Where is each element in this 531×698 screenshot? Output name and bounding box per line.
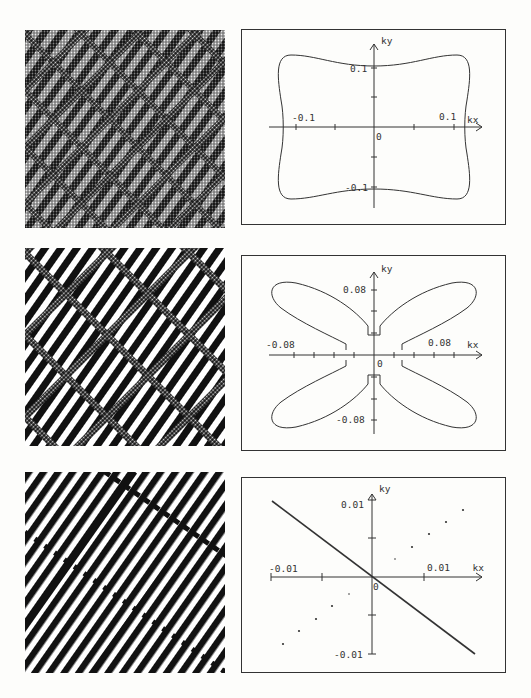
texture-pattern-3 [25, 472, 225, 673]
kx-axis-label: kx [467, 339, 479, 350]
y-tick-neg: -0.1 [345, 182, 368, 193]
origin-label: 0 [376, 131, 382, 142]
x-tick-pos: 0.08 [428, 337, 451, 348]
x-tick-neg: -0.01 [269, 563, 298, 574]
ky-axis-label: ky [379, 483, 391, 494]
wavevector-plot-1: ky kx 0.1 -0.1 -0.1 0.1 0 [241, 29, 506, 225]
wavevector-plot-2: ky kx 0.08 -0.08 -0.08 0.08 0 [241, 255, 506, 451]
y-tick-pos: 0.01 [341, 499, 364, 510]
kx-axis-label: kx [473, 562, 485, 573]
ky-axis-label: ky [381, 263, 393, 274]
x-tick-neg: -0.08 [266, 339, 295, 350]
x-tick-pos: 0.1 [439, 111, 456, 122]
origin-label: 0 [373, 581, 379, 592]
wavevector-plot-3: ky kx 0.01 -0.01 -0.01 0.01 0 [241, 477, 506, 673]
texture-pattern-1 [25, 30, 225, 228]
x-tick-pos: 0.01 [427, 562, 450, 573]
y-tick-neg: -0.01 [334, 649, 363, 660]
kx-axis-label: kx [467, 114, 479, 125]
texture-pattern-2 [25, 248, 225, 446]
y-tick-pos: 0.08 [343, 284, 366, 295]
y-tick-pos: 0.1 [350, 63, 367, 74]
ky-axis-label: ky [381, 35, 393, 46]
y-tick-neg: -0.08 [336, 414, 365, 425]
origin-label: 0 [377, 358, 383, 369]
x-tick-neg: -0.1 [292, 112, 315, 123]
